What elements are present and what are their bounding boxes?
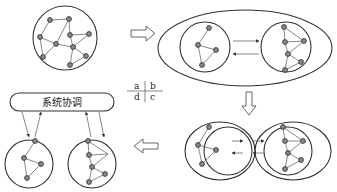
flow-arrow-right: [131, 26, 155, 41]
quadrant-label-d: d: [134, 92, 140, 102]
coordination-arrow-down-right: [99, 112, 104, 137]
quadrant-label-c: c: [150, 92, 155, 102]
network-edges: [40, 19, 89, 65]
diagram-canvas: a b d c: [0, 0, 337, 192]
network-nodes: [38, 17, 92, 68]
quadrant-legend: a b d c: [127, 81, 163, 102]
outer-boundary-ellipse: [158, 10, 332, 86]
subnetwork-boundary-left: [204, 127, 252, 175]
flow-arrow-left: [134, 139, 158, 153]
flow-arrow-down: [242, 92, 256, 115]
coordination-arrow-up-right: [86, 112, 91, 137]
stage-a-network: [33, 6, 97, 70]
stage-c-network: [185, 122, 331, 180]
coordination-arrow-up-left: [35, 112, 41, 137]
coordination-arrow-down-left: [22, 112, 29, 137]
outer-boundary-ellipse-left: [185, 122, 255, 180]
quadrant-label-a: a: [134, 81, 140, 91]
subsystem-boundary-left: [5, 140, 53, 188]
stage-b-network: [158, 10, 332, 86]
outer-boundary-ellipse-right: [255, 122, 331, 180]
stage-d-network: 系统协调: [5, 93, 116, 188]
quadrant-label-b: b: [150, 81, 156, 91]
coordinator-label: 系统协调: [42, 96, 82, 108]
